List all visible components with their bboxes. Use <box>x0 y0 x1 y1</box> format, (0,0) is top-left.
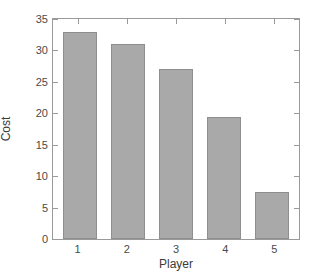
bar <box>63 32 98 239</box>
bar-slot <box>152 19 200 239</box>
x-axis-tick-label: 5 <box>271 244 277 255</box>
bar-chart-figure: 05101520253035 12345 Cost Player <box>0 0 331 280</box>
x-axis-tick-label: 1 <box>75 244 81 255</box>
x-axis-tick-label: 4 <box>222 244 228 255</box>
y-axis-tick <box>294 239 299 240</box>
y-axis-tick-label: 15 <box>36 139 48 150</box>
bar-slot <box>200 19 248 239</box>
y-axis-tick <box>53 239 58 240</box>
y-axis-tick-label: 20 <box>36 108 48 119</box>
bars-layer <box>53 19 299 239</box>
bar-slot <box>248 19 296 239</box>
bar <box>255 192 290 239</box>
y-axis-tick-label: 25 <box>36 76 48 87</box>
bar <box>111 44 146 239</box>
y-axis-tick-label: 30 <box>36 45 48 56</box>
y-axis-tick-label: 10 <box>36 171 48 182</box>
y-axis-tick-label: 0 <box>42 234 48 245</box>
y-axis-title: Cost <box>0 117 12 142</box>
bar <box>207 117 242 239</box>
bar-slot <box>104 19 152 239</box>
x-axis-tick-label: 2 <box>124 244 130 255</box>
y-axis-tick-label: 35 <box>36 14 48 25</box>
plot-area: 05101520253035 12345 <box>52 18 300 240</box>
y-axis-tick-label: 5 <box>42 202 48 213</box>
bar <box>159 69 194 239</box>
x-axis-title: Player <box>52 258 300 270</box>
bar-slot <box>56 19 104 239</box>
x-axis-tick-label: 3 <box>173 244 179 255</box>
